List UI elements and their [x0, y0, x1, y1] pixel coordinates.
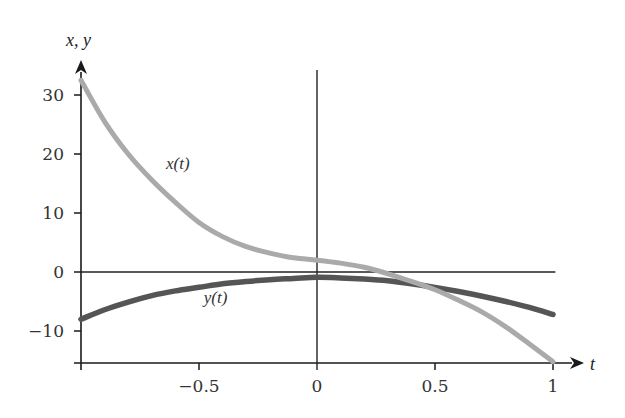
y-tick-label: −10 [28, 321, 64, 341]
labels: x, y t x(t) y(t) [65, 30, 596, 374]
ticks: −100102030−0.500.51 [28, 85, 558, 396]
x-tick-label: −0.5 [178, 376, 219, 396]
x-tick-label: 0 [312, 376, 323, 396]
y-curve-label: y(t) [202, 288, 228, 307]
y-tick-label: 0 [53, 262, 64, 282]
x-curve-label: x(t) [165, 154, 190, 173]
x-tick-label: 1 [548, 376, 559, 396]
x-tick-label: 0.5 [421, 376, 448, 396]
y-tick-label: 10 [42, 203, 64, 223]
y-tick-label: 20 [42, 144, 64, 164]
chart-canvas: −100102030−0.500.51 x, y t x(t) y(t) [0, 0, 625, 418]
axes [74, 70, 572, 370]
y-tick-label: 30 [42, 85, 64, 105]
y-axis-title: x, y [65, 30, 91, 50]
x-axis-title: t [590, 354, 596, 374]
